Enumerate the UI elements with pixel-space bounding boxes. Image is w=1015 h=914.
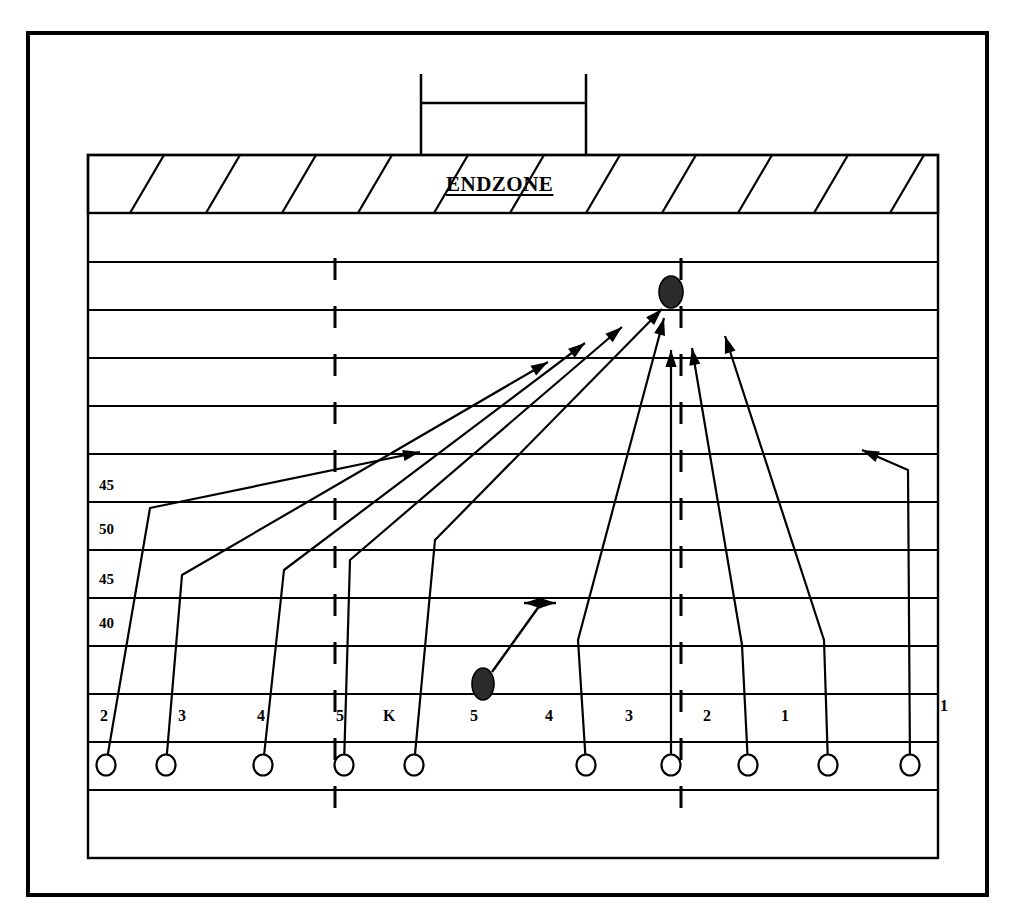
position-label-2-0: 2 [100, 708, 108, 724]
paper-background [0, 0, 1015, 914]
player-4-left[interactable] [254, 755, 273, 776]
player-3-left[interactable] [157, 755, 176, 776]
position-label-3-1: 3 [178, 708, 186, 724]
position-label-1-10: 1 [940, 698, 948, 714]
position-label-5-5: 5 [470, 708, 478, 724]
ball-target [659, 276, 683, 308]
kickoff-coverage-diagram [0, 0, 1015, 914]
yard-label-0: 45 [99, 478, 114, 493]
position-label-4-6: 4 [545, 708, 553, 724]
ball-landing [472, 668, 494, 700]
position-label-5-3: 5 [336, 708, 344, 724]
player-2-left[interactable] [97, 755, 116, 776]
position-label-1-9: 1 [781, 708, 789, 724]
diagram-canvas [0, 0, 1015, 914]
yard-label-1: 50 [99, 522, 114, 537]
player-3-right[interactable] [739, 755, 758, 776]
player-kicker[interactable] [405, 755, 424, 776]
position-label-4-2: 4 [257, 708, 265, 724]
yard-label-3: 40 [99, 616, 114, 631]
player-1-right[interactable] [901, 755, 920, 776]
position-label-K-4: K [383, 708, 395, 724]
position-label-2-8: 2 [703, 708, 711, 724]
endzone-label: ENDZONE [446, 174, 553, 195]
player-4-right[interactable] [662, 755, 681, 776]
yard-label-2: 45 [99, 572, 114, 587]
player-5-left[interactable] [335, 755, 354, 776]
player-5-right[interactable] [577, 755, 596, 776]
position-label-3-7: 3 [625, 708, 633, 724]
player-2-right[interactable] [819, 755, 838, 776]
